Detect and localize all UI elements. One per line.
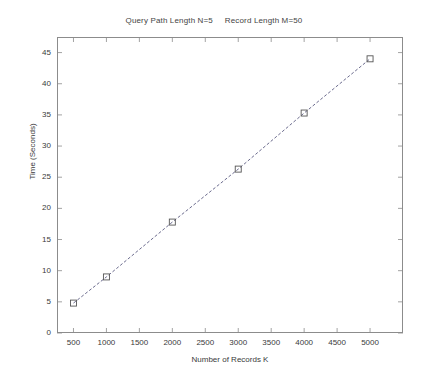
- series-line: [73, 59, 370, 303]
- x-tick-label: 500: [56, 338, 90, 347]
- axis-ticks: [57, 37, 403, 333]
- x-tick-label: 1000: [89, 338, 123, 347]
- y-tick-label: 45: [25, 48, 51, 57]
- x-tick-label: 1500: [122, 338, 156, 347]
- x-tick-label: 3500: [254, 338, 288, 347]
- x-tick-label: 4500: [320, 338, 354, 347]
- y-axis-label: Time (Seconds): [28, 92, 37, 212]
- data-series-group: [70, 56, 373, 306]
- y-tick-label: 5: [25, 297, 51, 306]
- x-tick-label: 2000: [155, 338, 189, 347]
- x-tick-label: 5000: [353, 338, 387, 347]
- y-tick-label: 0: [25, 328, 51, 337]
- x-tick-label: 3000: [221, 338, 255, 347]
- chart-title: Query Path Length N=5 Record Length M=50: [0, 16, 428, 25]
- y-tick-label: 10: [25, 266, 51, 275]
- x-tick-label: 4000: [287, 338, 321, 347]
- x-tick-label: 2500: [188, 338, 222, 347]
- plot-area: [57, 37, 403, 333]
- figure-canvas: Query Path Length N=5 Record Length M=50…: [0, 0, 428, 384]
- y-tick-label: 40: [25, 79, 51, 88]
- x-axis-label: Number of Records K: [57, 355, 403, 364]
- y-tick-label: 15: [25, 235, 51, 244]
